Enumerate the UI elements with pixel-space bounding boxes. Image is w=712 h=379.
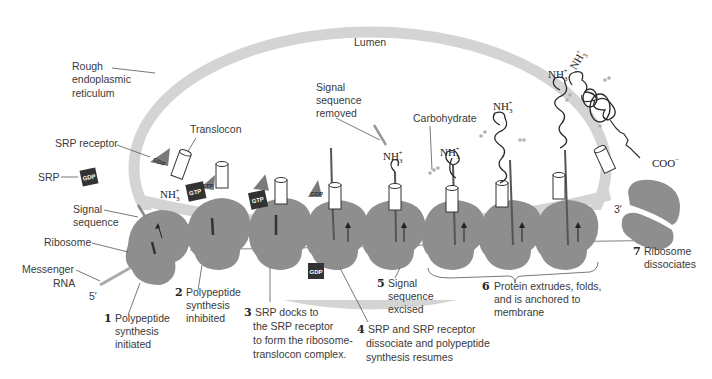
er-label: Rough endoplasmic reticulum — [72, 60, 155, 99]
lumen-label: Lumen — [354, 36, 386, 48]
svg-text:GDP: GDP — [310, 191, 323, 197]
step-4-caption: 4 SRP and SRP receptor dissociate and po… — [357, 323, 490, 363]
translocon-4 — [329, 183, 341, 210]
svg-text:to form the ribosome-: to form the ribosome- — [253, 334, 353, 346]
amino-terminus-5: NH3+ — [383, 149, 403, 165]
translocon-5 — [389, 184, 401, 211]
svg-text:translocon complex.: translocon complex. — [253, 348, 346, 360]
signal-removed-label-1: Signal — [316, 81, 345, 93]
translocon-3 — [275, 178, 287, 205]
carboxy-terminus: COO− — [652, 156, 679, 169]
signal-removed-label-3: removed — [316, 107, 357, 119]
svg-text:sequence: sequence — [388, 290, 434, 302]
svg-text:membrane: membrane — [494, 306, 544, 318]
svg-text:Polypeptide: Polypeptide — [115, 312, 170, 324]
svg-text:Signal: Signal — [388, 277, 417, 289]
three-prime-label: 3′ — [614, 203, 622, 215]
svg-text:dissociates: dissociates — [644, 258, 696, 270]
svg-text:2: 2 — [175, 286, 183, 299]
translocon-label: Translocon — [190, 123, 242, 135]
signal-sequence-label-2: sequence — [73, 216, 119, 228]
carbohydrate-6b — [479, 130, 526, 142]
five-prime-label: 5′ — [89, 290, 97, 302]
translocon-free — [593, 144, 615, 173]
svg-text:7: 7 — [633, 245, 641, 258]
translocon-6a — [446, 186, 458, 213]
svg-text:initiated: initiated — [115, 338, 151, 350]
signal-removed-label-2: sequence — [316, 94, 362, 106]
srp-gdp-released: GDP — [308, 263, 324, 279]
step-1-caption: 1 Polypeptide synthesis initiated — [104, 312, 170, 350]
srp-pathway-diagram: Lumen Rough endoplasmic reticulum Transl… — [0, 0, 712, 379]
svg-text:the SRP receptor: the SRP receptor — [253, 320, 334, 332]
carbohydrate-label: Carbohydrate — [413, 112, 477, 124]
mrna-label-2: RNA — [53, 277, 75, 289]
svg-text:Polypeptide: Polypeptide — [186, 286, 241, 298]
srp-receptor-label: SRP receptor — [55, 137, 118, 149]
svg-text:excised: excised — [388, 303, 424, 315]
svg-text:Protein extrudes, folds,: Protein extrudes, folds, — [494, 280, 601, 292]
svg-text:inhibited: inhibited — [186, 312, 225, 324]
translocon-6b — [496, 181, 508, 208]
svg-text:5: 5 — [377, 277, 385, 290]
amino-terminus-6a: NH3+ — [440, 145, 460, 161]
svg-text:dissociate and polypeptide: dissociate and polypeptide — [366, 337, 490, 349]
svg-text:4: 4 — [357, 323, 365, 336]
svg-text:endoplasmic: endoplasmic — [72, 73, 131, 85]
carbohydrate-6a — [428, 166, 440, 175]
svg-text:synthesis: synthesis — [115, 325, 159, 337]
srp-gtp-step-2: GTP — [185, 181, 206, 201]
amino-terminus-final: NH3+ — [566, 48, 590, 73]
step-7-caption: 7 Ribosome dissociates — [633, 245, 696, 270]
translocon-6c — [553, 173, 565, 200]
srp-receptor-4-gdp: GDP — [308, 180, 323, 197]
svg-text:1: 1 — [104, 312, 112, 325]
excised-signal-peptide — [374, 125, 386, 145]
srp-gdp-free: GDP — [80, 168, 99, 187]
svg-text:GDP: GDP — [310, 269, 323, 275]
svg-text:Ribosome: Ribosome — [644, 245, 691, 257]
svg-text:3: 3 — [244, 306, 252, 319]
translocon-1 — [171, 148, 192, 179]
svg-text:6: 6 — [482, 280, 490, 293]
mrna-label-1: Messenger — [22, 263, 74, 275]
svg-text:SRP docks to: SRP docks to — [255, 306, 319, 318]
signal-sequence-label-1: Signal — [73, 203, 102, 215]
svg-text:synthesis resumes: synthesis resumes — [366, 351, 453, 363]
srp-label: SRP — [38, 171, 60, 183]
ribosome-label: Ribosome — [44, 236, 91, 248]
svg-text:reticulum: reticulum — [72, 87, 115, 99]
srp-receptor-1: GDP — [150, 148, 170, 168]
svg-text:and is anchored to: and is anchored to — [494, 293, 581, 305]
ribosome-subunits-dissociated — [622, 180, 680, 250]
folding-chain-6b — [493, 112, 506, 183]
step-3-caption: 3 SRP docks to the SRP receptor to form … — [244, 306, 353, 360]
svg-text:synthesis: synthesis — [186, 299, 230, 311]
svg-text:SRP and SRP receptor: SRP and SRP receptor — [368, 323, 476, 335]
svg-text:Rough: Rough — [72, 60, 103, 72]
translocon-2 — [216, 162, 228, 189]
